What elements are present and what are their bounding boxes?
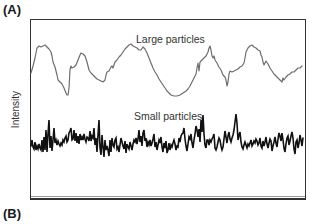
series-label-large: Large particles	[136, 33, 205, 45]
panel-label-b: (B)	[3, 206, 21, 221]
series-label-small: Small particles	[134, 110, 202, 122]
series-large-particles	[31, 44, 302, 96]
